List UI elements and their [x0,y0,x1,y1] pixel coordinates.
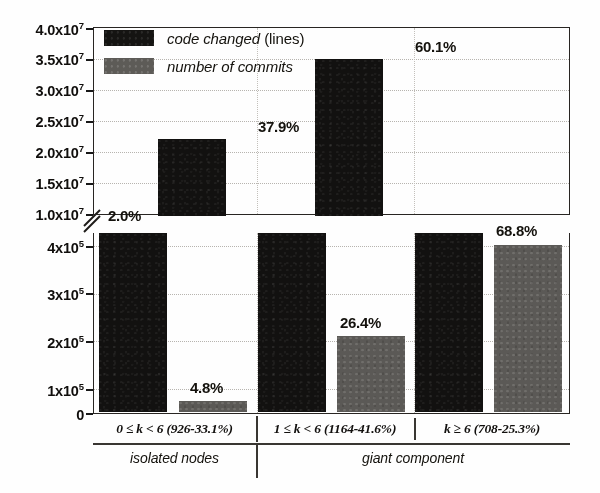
ytick-mark [86,413,93,415]
category-separator [256,416,258,442]
bar-dark-group-1 [99,233,167,412]
ytick-mark [86,90,93,92]
bar-dark-group-3-lower [415,233,483,412]
value-label-dark-1: 2.0% [108,207,141,224]
group-separator [256,443,258,478]
bar-dark-group-2-lower [258,233,326,412]
bar-dark-group-2 [158,139,226,216]
ytick-label-lower-0: 4x105 [8,238,84,256]
ytick-mark [86,246,93,248]
bar-gray-group-3 [494,245,562,412]
bar-dark-group-3 [315,59,383,216]
ytick-mark [86,59,93,61]
category-separator [414,418,416,440]
legend-label-code-changed: code changed (lines) [167,30,304,47]
ytick-label-upper-6: 1.0x107 [8,205,84,223]
xaxis-group-label-giant-component: giant component [256,450,570,466]
ytick-label-upper-5: 1.5x107 [8,174,84,192]
ytick-mark [86,183,93,185]
ytick-label-upper-3: 2.5x107 [8,112,84,130]
ytick-mark [86,293,93,295]
legend-item-code-changed: code changed (lines) [104,27,304,49]
value-label-dark-2: 37.9% [258,118,299,135]
ytick-mark [86,152,93,154]
value-label-gray-1: 4.8% [190,379,223,396]
lower-plot-frame [93,233,570,414]
legend-swatch-gray [104,58,154,74]
gridline-vertical [414,28,415,214]
ytick-mark [86,28,93,30]
value-label-gray-2: 26.4% [340,314,381,331]
ytick-label-lower-3: 1x105 [8,381,84,399]
chart-legend: code changed (lines) number of commits [104,27,304,83]
value-label-gray-3: 68.8% [496,222,537,239]
bar-chart-figure: 4.0x107 3.5x107 3.0x107 2.5x107 2.0x107 … [0,0,600,493]
xaxis-group-label-isolated-nodes: isolated nodes [93,450,256,466]
bar-gray-group-2 [337,336,405,412]
legend-label-number-of-commits: number of commits [167,58,293,75]
value-label-dark-3: 60.1% [415,38,456,55]
ytick-label-lower-2: 2x105 [8,333,84,351]
ytick-label-upper-4: 2.0x107 [8,143,84,161]
xaxis-group-rule [93,443,570,445]
ytick-label-upper-2: 3.0x107 [8,81,84,99]
ytick-label-upper-1: 3.5x107 [8,50,84,68]
xaxis-category-label-1: 0 ≤ k < 6 (926-33.1%) [93,421,256,437]
xaxis-category-label-2: 1 ≤ k < 6 (1164-41.6%) [256,421,414,437]
legend-swatch-dark [104,30,154,46]
ytick-label-lower-4: 0 [8,405,84,423]
ytick-mark [86,341,93,343]
ytick-label-upper-0: 4.0x107 [8,20,84,38]
legend-item-number-of-commits: number of commits [104,55,304,77]
xaxis-category-label-3: k ≥ 6 (708-25.3%) [414,421,570,437]
ytick-label-lower-1: 3x105 [8,285,84,303]
ytick-mark [86,389,93,391]
ytick-mark [86,121,93,123]
bar-gray-group-1 [179,401,247,412]
